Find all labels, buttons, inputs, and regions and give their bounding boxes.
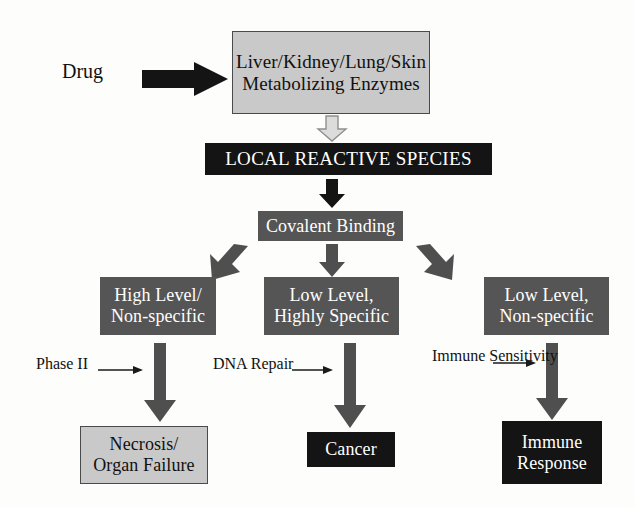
node-necrosis-organ-failure[interactable]: Necrosis/ Organ Failure [80,426,208,484]
node-low-level-highly-specific[interactable]: Low Level, Highly Specific [264,277,399,335]
node-line-1: Cancer [325,439,377,460]
arrow-covalent-to-low-nonspecific [412,242,474,284]
annotation-line-1: Immune [432,347,485,364]
node-line-1: High Level/ [114,285,202,306]
node-line-1: Low Level, [505,285,589,306]
node-covalent-binding[interactable]: Covalent Binding [258,211,403,241]
node-line-2: Metabolizing Enzymes [242,73,420,95]
arrow-phase-ii-modifier [98,364,144,376]
arrow-low-highly-specific-to-cancer [333,343,367,429]
node-local-reactive-species[interactable]: LOCAL REACTIVE SPECIES [205,143,492,175]
arrow-metabolizing-to-local-species [317,116,347,142]
node-line-2: Highly Specific [274,306,389,327]
node-line-2: Non-specific [499,306,593,327]
node-line-2: Response [517,453,587,474]
annotation-line-1: Phase II [36,355,88,372]
node-cancer[interactable]: Cancer [307,432,395,467]
arrow-drug-to-metabolizing [142,62,228,96]
arrow-immune-sensitivity-modifier [493,357,537,369]
node-immune-response[interactable]: Immune Response [502,421,602,484]
node-line-1: Liver/Kidney/Lung/Skin [236,51,426,73]
annotation-phase-ii: Phase II [36,355,88,374]
node-line-1: Necrosis/ [110,434,179,455]
node-line-1: Covalent Binding [266,216,395,237]
node-line-2: Non-specific [111,306,205,327]
arrow-local-species-to-covalent [318,179,346,209]
drug-input-label: Drug [62,60,132,83]
node-low-level-non-specific[interactable]: Low Level, Non-specific [484,277,609,335]
node-line-1: Immune [522,432,583,453]
flowchart-canvas: Drug Liver/Kidney/Lung/Skin Metabolizing… [0,0,635,508]
node-metabolizing-enzymes[interactable]: Liver/Kidney/Lung/Skin Metabolizing Enzy… [232,31,430,114]
node-high-level-non-specific[interactable]: High Level/ Non-specific [100,277,216,335]
node-line-2: Organ Failure [93,455,194,476]
arrow-high-level-to-necrosis [143,343,177,423]
annotation-dna-repair: DNA Repair [213,355,293,374]
node-line-1: LOCAL REACTIVE SPECIES [225,148,472,170]
arrow-covalent-to-low-highly-specific [318,244,346,278]
arrow-dna-repair-modifier [292,364,334,376]
annotation-line-1: DNA Repair [213,355,293,372]
node-line-1: Low Level, [290,285,374,306]
